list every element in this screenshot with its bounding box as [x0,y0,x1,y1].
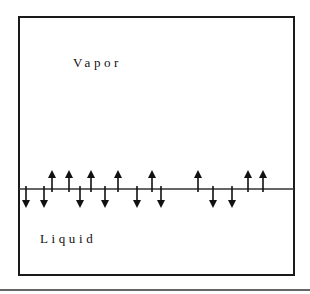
liquid-label: Liquid [40,231,96,247]
vapor-label: Vapor [73,55,122,71]
vapor-liquid-interface-diagram: Vapor Liquid [0,0,310,294]
diagram-canvas [0,0,310,294]
